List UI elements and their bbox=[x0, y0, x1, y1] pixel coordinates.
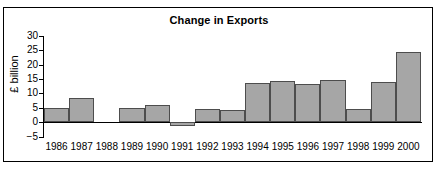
x-tick-label: 1990 bbox=[145, 141, 170, 153]
y-tick-mark bbox=[39, 65, 43, 66]
x-tick-label: 1999 bbox=[371, 141, 396, 153]
y-tick-text: 30 bbox=[27, 31, 38, 41]
x-tick-label: 1987 bbox=[69, 141, 94, 153]
bar bbox=[346, 109, 371, 122]
y-tick-mark bbox=[39, 122, 43, 123]
y-tick-label: 30 bbox=[0, 31, 38, 41]
x-tick-label: 1986 bbox=[44, 141, 69, 153]
y-tick-mark bbox=[39, 79, 43, 80]
bar bbox=[170, 122, 195, 126]
bar bbox=[145, 105, 170, 122]
y-tick-text: −5 bbox=[27, 132, 38, 142]
x-tick-label: 1993 bbox=[220, 141, 245, 153]
x-tick-label: 1997 bbox=[320, 141, 345, 153]
y-tick-mark bbox=[39, 108, 43, 109]
x-tick-label: 1996 bbox=[295, 141, 320, 153]
bar bbox=[195, 109, 220, 122]
x-tick-label: 2000 bbox=[396, 141, 421, 153]
y-tick-mark bbox=[39, 137, 43, 138]
y-tick-text: 15 bbox=[27, 74, 38, 84]
y-tick-label: 15 bbox=[0, 74, 38, 84]
bar bbox=[220, 110, 245, 122]
y-tick-text: 5 bbox=[32, 103, 38, 113]
x-axis-labels: 1986198719881989199019911992199319941995… bbox=[44, 141, 421, 155]
y-tick-text: 20 bbox=[27, 60, 38, 70]
y-tick-text: 0 bbox=[32, 117, 38, 127]
y-tick-label: −5 bbox=[0, 132, 38, 142]
bar bbox=[69, 98, 94, 122]
x-tick-label: 1988 bbox=[94, 141, 119, 153]
bar bbox=[295, 84, 320, 122]
bar bbox=[371, 82, 396, 122]
bar bbox=[320, 80, 345, 122]
y-tick-label: 0 bbox=[0, 117, 38, 127]
x-tick-label: 1989 bbox=[119, 141, 144, 153]
y-tick-label: 20 bbox=[0, 60, 38, 70]
x-tick-label: 1992 bbox=[195, 141, 220, 153]
x-tick-label: 1991 bbox=[170, 141, 195, 153]
chart-title: Change in Exports bbox=[0, 14, 438, 26]
y-tick-label: 5 bbox=[0, 103, 38, 113]
y-tick-text: 10 bbox=[27, 88, 38, 98]
bar-series bbox=[44, 36, 421, 137]
y-tick-mark bbox=[39, 50, 43, 51]
chart-screenshot: Change in Exports £ billion 302520151050… bbox=[0, 0, 438, 170]
y-tick-mark bbox=[39, 93, 43, 94]
bar bbox=[270, 81, 295, 122]
bar bbox=[245, 83, 270, 122]
bar bbox=[119, 108, 144, 122]
y-tick-label: 25 bbox=[0, 45, 38, 55]
x-tick-label: 1995 bbox=[270, 141, 295, 153]
x-tick-label: 1994 bbox=[245, 141, 270, 153]
bar bbox=[396, 52, 421, 122]
y-tick-text: 25 bbox=[27, 45, 38, 55]
y-tick-label: 10 bbox=[0, 88, 38, 98]
y-tick-mark bbox=[39, 36, 43, 37]
bar bbox=[44, 108, 69, 122]
x-tick-label: 1998 bbox=[346, 141, 371, 153]
